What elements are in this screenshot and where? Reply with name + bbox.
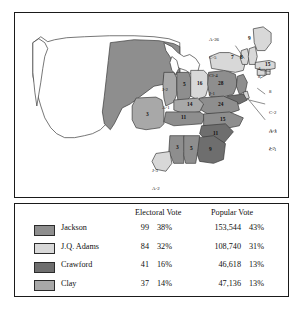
results-legend-panel: Electoral Vote Popular Vote Jackson 99 3… — [14, 203, 289, 297]
state-label-indiana: 5 — [183, 82, 186, 87]
candidate-name: Jackson — [61, 223, 87, 232]
annotation-new-york-split: A-26 C-5 Cl-4 J-1 — [209, 25, 219, 109]
annotation-line: A-1 — [162, 105, 172, 111]
state-label-tennessee: 11 — [181, 115, 186, 120]
popular-percent: 13% — [249, 279, 275, 288]
electoral-votes: 41 — [125, 260, 149, 269]
annotation-line: J-1 — [209, 91, 219, 97]
candidate-name: Clay — [61, 279, 76, 288]
annotation-line: C-5 — [209, 55, 219, 61]
popular-votes: 153,544 — [197, 223, 241, 232]
candidate-name: J.Q. Adams — [61, 242, 99, 251]
electoral-percent: 14% — [157, 279, 181, 288]
state-label-maine: 9 — [248, 36, 251, 41]
electoral-percent: 16% — [157, 260, 181, 269]
state-new-jersey — [236, 74, 247, 94]
state-label-mississippi: 3 — [176, 145, 179, 150]
annotation-illinois-split: J-2 A-1 — [162, 75, 172, 123]
annotation-rhode-island-pointer: 4 — [258, 66, 260, 72]
state-label-south-carolina: 11 — [213, 131, 218, 136]
electoral-votes: 37 — [125, 279, 149, 288]
electoral-votes: 84 — [125, 242, 149, 251]
state-new-hampshire — [248, 47, 257, 65]
popular-percent: 13% — [249, 260, 275, 269]
annotation-connecticut-pointer: 8 — [258, 74, 260, 80]
state-label-ohio: 16 — [197, 81, 202, 86]
state-label-new-hampshire: 8 — [240, 55, 243, 60]
annotation-line: J-3 — [152, 168, 162, 174]
results-rows: Jackson 99 38% 153,544 43% J.Q. Adams 84… — [15, 221, 288, 295]
annotation-delaware-split: A-3 C-1 — [269, 117, 279, 165]
table-row: Crawford 41 16% 46,618 13% — [15, 258, 288, 277]
annotation-louisiana-split: J-3 A-2 — [152, 156, 162, 204]
column-header-popular-vote: Popular Vote — [211, 208, 253, 217]
legend-swatch-adams — [34, 243, 55, 254]
annotation-new-jersey-pointer: 8 — [269, 89, 271, 95]
annotation-line: A-2 — [152, 186, 162, 192]
map-panel: .st{stroke:#3a3a3a;stroke-width:0.7;stro… — [14, 12, 289, 198]
state-label-north-carolina: 15 — [220, 117, 225, 122]
annotation-line: C-2 — [269, 110, 279, 116]
legend-swatch-clay — [34, 280, 55, 291]
state-label-missouri: 3 — [146, 112, 149, 117]
table-column-headers: Electoral Vote Popular Vote — [15, 208, 288, 220]
state-label-vermont: 7 — [231, 55, 234, 60]
table-row: Jackson 99 38% 153,544 43% — [15, 221, 288, 240]
annotation-line: A-3 — [269, 129, 279, 135]
column-header-electoral-vote: Electoral Vote — [135, 208, 181, 217]
popular-votes: 47,136 — [197, 279, 241, 288]
annotation-line: J-2 — [162, 87, 172, 93]
state-label-alabama: 5 — [190, 146, 193, 151]
table-row: J.Q. Adams 84 32% 108,740 31% — [15, 240, 288, 259]
electoral-percent: 32% — [157, 242, 181, 251]
election-map-figure: .st{stroke:#3a3a3a;stroke-width:0.7;stro… — [0, 0, 303, 309]
state-label-kentucky: 14 — [187, 102, 192, 107]
popular-percent: 43% — [249, 223, 275, 232]
state-maine — [253, 27, 271, 51]
state-rhode-island — [266, 69, 270, 74]
annotation-line: Cl-4 — [209, 73, 219, 79]
popular-votes: 108,740 — [197, 242, 241, 251]
legend-swatch-jackson — [34, 225, 55, 236]
annotation-line: C-1 — [269, 147, 279, 153]
popular-votes: 46,618 — [197, 260, 241, 269]
table-row: Clay 37 14% 47,136 13% — [15, 277, 288, 296]
popular-percent: 31% — [249, 242, 275, 251]
electoral-percent: 38% — [157, 223, 181, 232]
legend-swatch-crawford — [34, 262, 55, 273]
state-label-georgia: 9 — [209, 147, 212, 152]
annotation-line: A-26 — [209, 37, 219, 43]
state-label-massachusetts: 15 — [265, 62, 270, 67]
candidate-name: Crawford — [61, 260, 92, 269]
electoral-votes: 99 — [125, 223, 149, 232]
